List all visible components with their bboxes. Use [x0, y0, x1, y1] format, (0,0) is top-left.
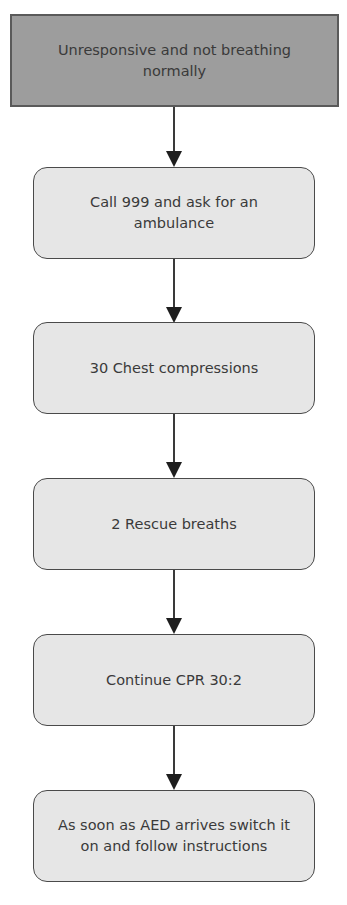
continue-cpr-label: Continue CPR 30:2 [106, 670, 242, 691]
chest-compressions-label: 30 Chest compressions [90, 358, 259, 379]
chest-compressions-node: 30 Chest compressions [33, 322, 315, 414]
arrow-line [173, 570, 175, 620]
continue-cpr-node: Continue CPR 30:2 [33, 634, 315, 726]
arrow-down-icon [166, 151, 182, 167]
rescue-breaths-node: 2 Rescue breaths [33, 478, 315, 570]
arrow-line [173, 259, 175, 309]
arrow-line [173, 107, 175, 152]
call-ambulance-node: Call 999 and ask for an ambulance [33, 167, 315, 259]
arrow-down-icon [166, 462, 182, 478]
start-node-label: Unresponsive and not breathing normally [36, 40, 313, 82]
call-ambulance-label: Call 999 and ask for an ambulance [58, 192, 290, 234]
arrow-line [173, 414, 175, 464]
aed-label: As soon as AED arrives switch it on and … [58, 815, 290, 857]
rescue-breaths-label: 2 Rescue breaths [111, 514, 237, 535]
start-node: Unresponsive and not breathing normally [10, 14, 339, 107]
arrow-down-icon [166, 774, 182, 790]
aed-node: As soon as AED arrives switch it on and … [33, 790, 315, 882]
arrow-down-icon [166, 307, 182, 323]
arrow-down-icon [166, 618, 182, 634]
arrow-line [173, 726, 175, 776]
